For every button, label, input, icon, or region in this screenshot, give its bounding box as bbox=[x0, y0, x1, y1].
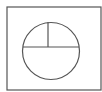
geometry-diagram bbox=[0, 0, 102, 92]
bounding-rectangle bbox=[7, 7, 101, 90]
circle bbox=[23, 23, 80, 80]
